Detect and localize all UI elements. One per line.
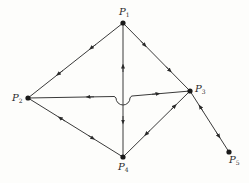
edge-p2-p3 xyxy=(28,91,190,105)
node-p4 xyxy=(120,154,125,159)
edge-p3-p5 xyxy=(190,91,229,152)
node-p1 xyxy=(120,20,125,25)
node-p3 xyxy=(187,88,192,93)
label-p1: P1 xyxy=(118,6,130,18)
label-p5: P5 xyxy=(228,154,240,166)
node-p2 xyxy=(25,95,30,100)
graph-canvas: P1 P2 P3 P4 P5 xyxy=(0,0,249,183)
edge-p2-p4 xyxy=(28,98,123,157)
network-diagram: P1 P2 P3 P4 P5 xyxy=(0,0,249,183)
edge-p1-p2 xyxy=(28,23,123,98)
edge-p1-p3 xyxy=(123,23,190,91)
label-p3: P3 xyxy=(194,83,206,95)
edge-p3-p4 xyxy=(123,91,190,157)
label-p2: P2 xyxy=(11,92,23,104)
label-p4: P4 xyxy=(117,161,129,173)
